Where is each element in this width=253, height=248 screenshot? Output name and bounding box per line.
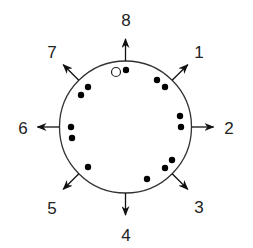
direction-label-1: 1 <box>194 43 203 62</box>
filled-dot <box>78 92 84 98</box>
direction-label-3: 3 <box>194 198 203 217</box>
filled-dot <box>69 135 75 141</box>
direction-label-7: 7 <box>47 43 56 62</box>
direction-circle-diagram: 12345678 <box>0 0 253 248</box>
filled-dot <box>178 124 184 130</box>
arrow-direction-3 <box>172 174 188 190</box>
direction-arrows <box>38 39 214 215</box>
main-circle <box>60 61 192 193</box>
data-points <box>68 67 184 182</box>
direction-label-6: 6 <box>18 119 27 138</box>
arrow-direction-5 <box>63 174 79 190</box>
filled-dot <box>85 164 91 170</box>
filled-dot <box>154 77 160 83</box>
filled-dot <box>177 113 183 119</box>
direction-label-2: 2 <box>224 119 233 138</box>
filled-dot <box>123 67 129 73</box>
filled-dot <box>85 84 91 90</box>
filled-dot <box>162 165 168 171</box>
direction-label-8: 8 <box>121 11 130 30</box>
filled-dot <box>169 157 175 163</box>
arrow-direction-1 <box>172 65 188 81</box>
direction-label-5: 5 <box>47 199 56 218</box>
direction-label-4: 4 <box>121 226 130 245</box>
filled-dot <box>68 124 74 130</box>
filled-dot <box>162 84 168 90</box>
filled-dot <box>144 176 150 182</box>
arrow-direction-7 <box>63 65 79 81</box>
open-dot <box>112 68 121 77</box>
